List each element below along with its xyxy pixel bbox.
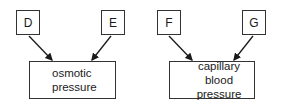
- result-line-2: pressure: [52, 80, 97, 94]
- result-line-2: blood pressure: [184, 73, 254, 101]
- result-line-1: osmotic: [52, 66, 97, 80]
- factor-label: G: [249, 16, 258, 30]
- result-box-osmotic-pressure: osmotic pressure: [29, 61, 116, 99]
- factor-label: F: [165, 16, 172, 30]
- factor-box-d: D: [16, 10, 40, 35]
- factor-label: E: [109, 16, 117, 30]
- factor-box-f: F: [157, 10, 181, 35]
- result-line-1: capillary: [184, 59, 254, 73]
- result-box-capillary-blood-pressure: capillary blood pressure: [169, 61, 255, 99]
- factor-label: D: [24, 16, 33, 30]
- factor-box-e: E: [101, 10, 125, 35]
- factor-box-g: G: [242, 10, 266, 35]
